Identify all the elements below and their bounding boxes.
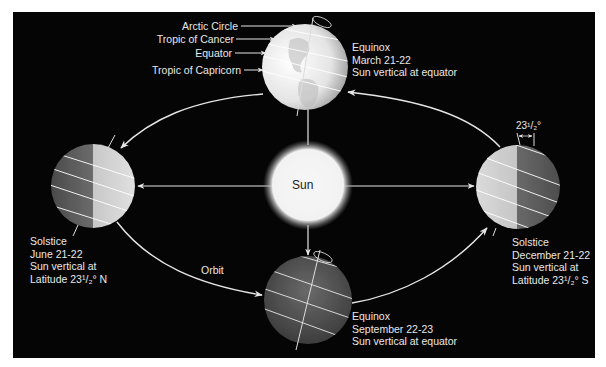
caption-event: Solstice [512,236,590,249]
caption-event: Equinox [352,41,457,54]
label-tropic-of-cancer: Tropic of Cancer [130,33,234,46]
caption-note: Sun vertical at [30,260,107,273]
globe-september-equinox [262,249,356,350]
caption-latitude: Latitude 23¹/₂° N [30,273,107,286]
caption-date: December 21-22 [512,249,590,262]
label-arctic-circle: Arctic Circle [150,20,238,33]
label-tropic-of-capricorn: Tropic of Capricorn [120,64,241,77]
caption-december: Solstice December 21-22 Sun vertical at … [512,236,590,286]
globe-december-solstice [474,133,562,236]
caption-note: Sun vertical at equator [352,66,457,79]
caption-latitude: Latitude 23¹/₂° S [512,274,590,287]
caption-date: June 21-22 [30,248,107,261]
orbit-label: Orbit [201,264,224,277]
axial-tilt-label: 23¹/₂° [516,120,541,133]
caption-date: September 22-23 [352,323,457,336]
caption-september: Equinox September 22-23 Sun vertical at … [352,310,457,348]
caption-march: Equinox March 21-22 Sun vertical at equa… [352,41,457,79]
caption-date: March 21-22 [352,54,457,67]
caption-event: Solstice [30,235,107,248]
sun-label: Sun [292,178,313,192]
globe-march-equinox [258,14,352,116]
caption-note: Sun vertical at [512,261,590,274]
caption-event: Equinox [352,310,457,323]
caption-june: Solstice June 21-22 Sun vertical at Lati… [30,235,107,285]
caption-note: Sun vertical at equator [352,335,457,348]
label-equator: Equator [150,47,232,60]
globe-june-solstice [50,135,140,236]
